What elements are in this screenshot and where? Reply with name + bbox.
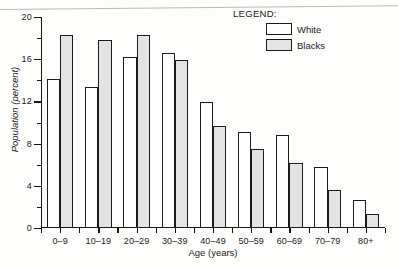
category-label: 60–69 bbox=[277, 236, 303, 246]
category-label: 70–79 bbox=[315, 236, 341, 246]
y-tick-minor bbox=[37, 80, 42, 81]
bar-blacks-1 bbox=[98, 40, 111, 228]
category-label: 40–49 bbox=[200, 236, 226, 246]
y-tick-minor bbox=[37, 207, 42, 208]
y-tick-major bbox=[34, 186, 41, 187]
x-tick bbox=[156, 228, 157, 233]
y-tick-label: 4 bbox=[27, 181, 32, 191]
x-tick-inner bbox=[251, 228, 252, 233]
y-tick-major bbox=[34, 228, 41, 229]
y-tick-label: 0 bbox=[27, 223, 32, 233]
plot-area: 048121620 0–910–1920–2930–3940–4950–5960… bbox=[41, 17, 385, 228]
bar-blacks-7 bbox=[328, 190, 341, 228]
bar-blacks-3 bbox=[175, 60, 188, 228]
bar-white-5 bbox=[238, 132, 251, 228]
bar-white-2 bbox=[123, 57, 136, 228]
x-tick-inner bbox=[366, 228, 367, 233]
y-axis-title: Population (percent) bbox=[9, 30, 20, 190]
bar-blacks-4 bbox=[213, 126, 226, 228]
x-tick bbox=[117, 228, 118, 233]
bar-white-4 bbox=[200, 102, 213, 228]
x-tick-inner bbox=[60, 228, 61, 233]
x-tick bbox=[194, 228, 195, 233]
x-tick-inner bbox=[328, 228, 329, 233]
category-label: 0–9 bbox=[52, 236, 67, 246]
x-tick bbox=[79, 228, 80, 233]
x-tick bbox=[347, 228, 348, 233]
y-tick-major bbox=[34, 144, 41, 145]
bar-blacks-5 bbox=[251, 149, 264, 228]
x-tick-inner bbox=[175, 228, 176, 233]
bar-blacks-8 bbox=[366, 214, 379, 228]
x-tick bbox=[309, 228, 310, 233]
category-label: 20–29 bbox=[124, 236, 150, 246]
bar-white-6 bbox=[276, 135, 289, 228]
y-tick-major bbox=[34, 59, 41, 60]
category-label: 10–19 bbox=[86, 236, 112, 246]
x-tick-inner bbox=[137, 228, 138, 233]
x-tick-inner bbox=[98, 228, 99, 233]
bar-chart-figure: LEGEND: White Blacks 048121620 0–910–192… bbox=[0, 0, 398, 266]
category-label: 50–59 bbox=[238, 236, 264, 246]
bar-white-3 bbox=[162, 53, 175, 228]
x-axis-title: Age (years) bbox=[41, 247, 385, 258]
y-tick-minor bbox=[37, 38, 42, 39]
x-tick bbox=[385, 228, 386, 233]
x-tick bbox=[270, 228, 271, 233]
bar-blacks-2 bbox=[137, 35, 150, 228]
bar-blacks-0 bbox=[60, 35, 73, 228]
bar-blacks-6 bbox=[289, 163, 302, 228]
y-tick-label: 12 bbox=[22, 96, 32, 106]
category-label: 30–39 bbox=[162, 236, 188, 246]
y-tick-major bbox=[34, 101, 41, 102]
y-tick-minor bbox=[37, 123, 42, 124]
y-tick-major bbox=[34, 17, 41, 18]
x-tick bbox=[232, 228, 233, 233]
y-tick-label: 8 bbox=[27, 139, 32, 149]
x-tick bbox=[41, 228, 42, 233]
x-tick-inner bbox=[213, 228, 214, 233]
y-axis-line bbox=[41, 17, 42, 228]
bar-white-8 bbox=[353, 200, 366, 228]
bar-white-0 bbox=[47, 79, 60, 228]
bar-white-1 bbox=[85, 87, 98, 228]
category-label: 80+ bbox=[358, 236, 374, 246]
y-tick-label: 20 bbox=[22, 12, 32, 22]
y-tick-label: 16 bbox=[22, 54, 32, 64]
y-tick-minor bbox=[37, 165, 42, 166]
bar-white-7 bbox=[314, 167, 327, 228]
x-tick-inner bbox=[289, 228, 290, 233]
